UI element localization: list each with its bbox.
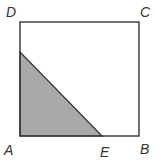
label-d: D (6, 4, 16, 20)
geometry-diagram: D C A E B (0, 0, 158, 162)
label-a: A (3, 142, 13, 158)
label-b: B (140, 141, 149, 157)
label-c: C (140, 4, 151, 20)
label-e: E (100, 144, 110, 160)
shaded-triangle (20, 52, 102, 136)
